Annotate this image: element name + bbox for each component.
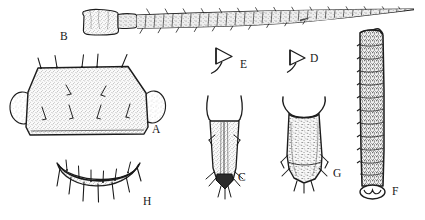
- figure-label-g: G: [333, 167, 341, 179]
- figure-label-f: F: [392, 185, 398, 197]
- figure-label-c: C: [238, 171, 246, 183]
- figure-label-e: E: [240, 58, 247, 70]
- figure-label-d: D: [310, 52, 318, 64]
- figure-label-a: A: [152, 123, 161, 135]
- illustration-plate: B: [0, 0, 425, 220]
- figure-label-h: H: [143, 195, 151, 207]
- figure-label-b: B: [60, 30, 68, 42]
